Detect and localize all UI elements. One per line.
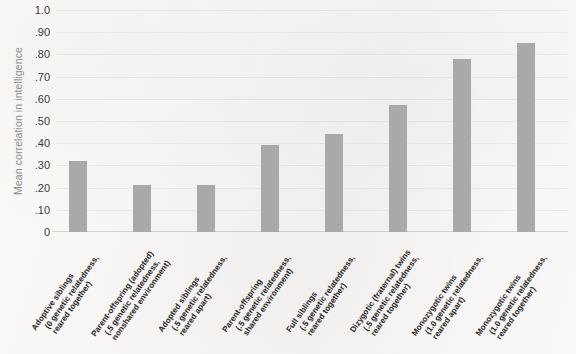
y-axis-tick-label: .30 bbox=[35, 159, 50, 171]
y-axis-tick-label: 0 bbox=[44, 226, 50, 238]
x-axis-category-line: (.5 genetic relatedness, bbox=[228, 254, 292, 340]
gridline bbox=[56, 32, 568, 33]
y-axis-tick-label: .10 bbox=[35, 204, 50, 216]
gridline bbox=[56, 143, 568, 144]
x-axis-category-line: (.5 genetic relatedness, bbox=[292, 254, 356, 340]
bar bbox=[133, 185, 151, 232]
x-axis-category-line: (.5 genetic relatedness, bbox=[164, 254, 228, 340]
plot-area: Mean correlation in intelligence 1.0.90.… bbox=[56, 10, 568, 232]
bar bbox=[197, 185, 215, 232]
y-axis-tick-label: .80 bbox=[35, 48, 50, 60]
x-axis-category-line: (.5 genetic relatedness, bbox=[97, 254, 164, 345]
gridline bbox=[56, 165, 568, 166]
gridline bbox=[56, 77, 568, 78]
bar bbox=[389, 105, 407, 232]
y-axis-tick-label: .60 bbox=[35, 93, 50, 105]
y-axis-tick-label: .40 bbox=[35, 137, 50, 149]
y-axis-tick-label: .90 bbox=[35, 26, 50, 38]
bar bbox=[261, 145, 279, 232]
y-axis-title: Mean correlation in intelligence bbox=[12, 10, 28, 232]
bar bbox=[453, 59, 471, 232]
x-axis-baseline bbox=[52, 231, 568, 232]
y-axis-tick-label: .20 bbox=[35, 182, 50, 194]
gridline bbox=[56, 121, 568, 122]
x-axis-category-line: (.5 genetic relatedness, bbox=[356, 254, 421, 341]
y-axis-tick-label: .70 bbox=[35, 71, 50, 83]
bar bbox=[69, 161, 87, 232]
y-axis-tick-label: 1.0 bbox=[35, 4, 50, 16]
x-axis-category-line: (0 genetic relatedness, bbox=[38, 254, 101, 338]
bar bbox=[517, 43, 535, 232]
gridline bbox=[56, 54, 568, 55]
x-axis-category-line: (1.0 genetic relatedness, bbox=[482, 254, 549, 344]
gridline bbox=[56, 99, 568, 100]
y-axis-tick-label: .50 bbox=[35, 115, 50, 127]
gridline bbox=[56, 10, 568, 11]
chart-page: Mean correlation in intelligence 1.0.90.… bbox=[0, 0, 576, 354]
bar bbox=[325, 134, 343, 232]
